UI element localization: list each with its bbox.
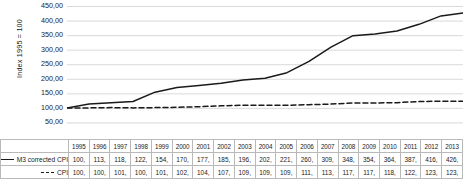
data-cell: 416,	[421, 153, 442, 166]
data-cell: 101,	[151, 166, 172, 179]
data-cell: 109,	[276, 166, 297, 179]
data-cell: 101,	[110, 166, 131, 179]
table-corner-cell	[1, 140, 69, 153]
data-cell: 109,	[255, 166, 276, 179]
data-cell: 100,	[131, 166, 152, 179]
y-tick-label: 450,00	[33, 2, 63, 10]
year-header-cell: 1999	[151, 140, 172, 153]
y-tick-label: 100,00	[33, 104, 63, 112]
data-cell: 117,	[359, 166, 380, 179]
year-header-cell: 1996	[89, 140, 110, 153]
data-cell: 387,	[400, 153, 421, 166]
data-cell: 354,	[359, 153, 380, 166]
y-tick-label: 350,00	[33, 31, 63, 39]
data-cell: 185,	[214, 153, 235, 166]
y-tick-label: 200,00	[33, 75, 63, 83]
data-cell: 118,	[380, 166, 401, 179]
legend-entry: CPI	[1, 166, 69, 179]
year-header-cell: 2002	[214, 140, 235, 153]
y-tick-label: 50,00	[33, 118, 63, 126]
data-cell: 196,	[234, 153, 255, 166]
year-header-cell: 2008	[338, 140, 359, 153]
plot-canvas	[67, 6, 463, 137]
year-header-cell: 2012	[421, 140, 442, 153]
year-header-cell: 1998	[131, 140, 152, 153]
data-cell: 364,	[380, 153, 401, 166]
data-cell: 202,	[255, 153, 276, 166]
plot-svg	[67, 6, 463, 137]
data-cell: 221,	[276, 153, 297, 166]
data-cell: 122,	[131, 153, 152, 166]
legend-label: CPI	[57, 169, 68, 176]
data-cell: 100,	[69, 153, 90, 166]
year-header-cell: 1995	[69, 140, 90, 153]
data-cell: 109,	[234, 166, 255, 179]
legend-label: M3 corrected CPI	[17, 156, 68, 163]
data-cell: 104,	[193, 166, 214, 179]
data-cell: 122,	[400, 166, 421, 179]
data-cell: 154,	[151, 153, 172, 166]
year-header-cell: 2007	[317, 140, 338, 153]
y-tick-label: 300,00	[33, 46, 63, 54]
line-chart: Index 1995 = 100 50,00100,00150,00200,00…	[0, 0, 463, 141]
data-cell: 123,	[442, 166, 463, 179]
legend-solid-line-icon	[1, 159, 14, 160]
year-header-cell: 2004	[255, 140, 276, 153]
data-cell: 348,	[338, 153, 359, 166]
data-cell: 170,	[172, 153, 193, 166]
data-cell: 100,	[89, 166, 110, 179]
data-table-area: 1995199619971998199920002001200220032004…	[0, 139, 463, 188]
year-header-cell: 2011	[400, 140, 421, 153]
data-cell: 118,	[110, 153, 131, 166]
legend-entry: M3 corrected CPI	[1, 153, 69, 166]
year-header-cell: 2001	[193, 140, 214, 153]
data-cell: 113,	[89, 153, 110, 166]
year-header-cell: 2010	[380, 140, 401, 153]
chart-screenshot: Index 1995 = 100 50,00100,00150,00200,00…	[0, 0, 463, 188]
y-tick-label: 150,00	[33, 89, 63, 97]
plot-wrapper: 50,00100,00150,00200,00250,00300,00350,0…	[33, 6, 463, 137]
table-header-row: 1995199619971998199920002001200220032004…	[1, 140, 463, 153]
data-cell: 117,	[338, 166, 359, 179]
y-tick-label: 250,00	[33, 60, 63, 68]
data-cell: 309,	[317, 153, 338, 166]
year-header-cell: 2009	[359, 140, 380, 153]
year-header-cell: 2000	[172, 140, 193, 153]
data-cell: 426,	[442, 153, 463, 166]
data-cell: 102,	[172, 166, 193, 179]
data-cell: 113,	[317, 166, 338, 179]
year-header-cell: 1997	[110, 140, 131, 153]
table-row: M3 corrected CPI100,113,118,122,154,170,…	[1, 153, 463, 166]
data-cell: 123,	[421, 166, 442, 179]
year-header-cell: 2005	[276, 140, 297, 153]
data-cell: 107,	[214, 166, 235, 179]
data-cell: 100,	[69, 166, 90, 179]
legend-dashed-line-icon	[41, 172, 54, 173]
y-tick-label: 400,00	[33, 17, 63, 25]
data-cell: 260,	[297, 153, 318, 166]
data-table: 1995199619971998199920002001200220032004…	[0, 139, 463, 179]
table-row: CPI100,100,101,100,101,102,104,107,109,1…	[1, 166, 463, 179]
data-cell: 111,	[297, 166, 318, 179]
y-axis-label: Index 1995 = 100	[15, 0, 24, 104]
data-cell: 177,	[193, 153, 214, 166]
year-header-cell: 2003	[234, 140, 255, 153]
year-header-cell: 2006	[297, 140, 318, 153]
year-header-cell: 2013	[442, 140, 463, 153]
